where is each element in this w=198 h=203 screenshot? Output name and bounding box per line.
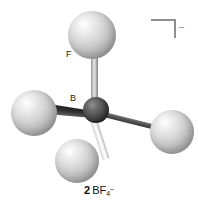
atom-fluorine-right [150, 110, 194, 154]
atom-label-fluorine: F [66, 50, 72, 59]
bracket-right-bar [174, 19, 176, 38]
caption-number: 2 [84, 184, 90, 196]
molecular-structure-figure: – F B 2BF4– [0, 0, 198, 203]
charge-sign-label: – [179, 23, 184, 32]
atom-label-boron: B [70, 94, 76, 103]
atom-fluorine-left [11, 90, 57, 136]
atom-boron-center [83, 97, 109, 123]
atom-fluorine-top [68, 11, 116, 59]
caption-formula: BF [92, 184, 106, 196]
bracket-corner-icon [151, 19, 176, 38]
figure-caption: 2BF4– [0, 183, 198, 200]
caption-superscript-charge: – [110, 185, 114, 192]
bracket-top-bar [151, 19, 176, 21]
atom-fluorine-bottom [55, 139, 99, 183]
